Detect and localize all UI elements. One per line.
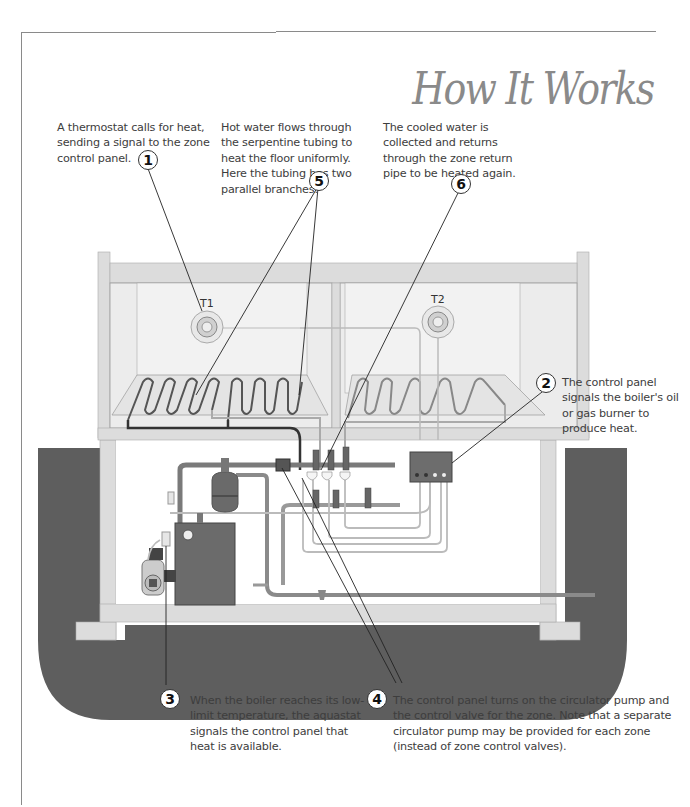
boiler (175, 513, 235, 605)
step-5-text: Hot water flows through the serpentine t… (221, 121, 352, 196)
thermostat-t1 (191, 311, 223, 343)
step-1-text: A thermostat calls for heat, sending a s… (57, 121, 210, 165)
step-3-caption: When the boiler reaches its low-limit te… (190, 693, 370, 755)
aquastat (162, 532, 170, 546)
step-5-caption: Hot water flows through the serpentine t… (221, 120, 361, 197)
step-4-caption: The control panel turns on the circulato… (393, 693, 683, 755)
step-4-text: The control panel turns on the circulato… (393, 694, 671, 753)
expansion-tank (212, 472, 238, 512)
control-panel (410, 452, 452, 482)
thermostat-t2-label: T2 (430, 293, 445, 306)
step-1-badge: 1 (138, 150, 158, 170)
thermostat-t2 (422, 306, 454, 338)
step-5-badge: 5 (309, 171, 329, 191)
step-3-badge: 3 (160, 689, 180, 709)
step-2-text: The control panel signals the boiler's o… (562, 376, 679, 435)
step-6-text: The cooled water is collected and return… (383, 121, 516, 180)
step-2-caption: The control panel signals the boiler's o… (562, 375, 687, 437)
step-3-text: When the boiler reaches its low-limit te… (190, 694, 364, 753)
step-6-badge: 6 (451, 174, 471, 194)
step-6-caption: The cooled water is collected and return… (383, 120, 523, 182)
step-4-badge: 4 (367, 689, 387, 709)
step-2-badge: 2 (536, 373, 556, 393)
